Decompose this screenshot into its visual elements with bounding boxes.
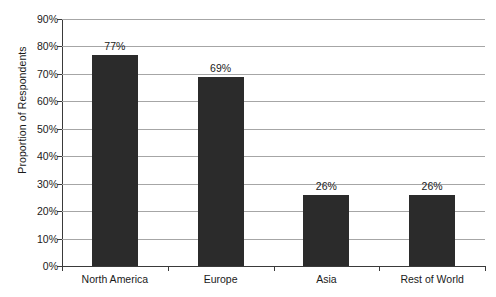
x-axis-category-label: Rest of World xyxy=(400,273,463,285)
y-axis-tick-label: 90% xyxy=(24,13,58,25)
y-axis-tick-label: 60% xyxy=(24,95,58,107)
bar xyxy=(303,195,349,266)
bar-value-label: 26% xyxy=(422,180,443,192)
y-axis-tick-mark xyxy=(57,184,62,185)
gridline xyxy=(62,46,485,47)
bar xyxy=(198,77,244,266)
y-axis-tick-mark xyxy=(57,101,62,102)
x-axis-tick-mark xyxy=(485,266,486,271)
y-axis-tick-mark xyxy=(57,46,62,47)
x-axis-tick-mark xyxy=(168,266,169,271)
bar-value-label: 69% xyxy=(210,62,231,74)
y-axis-tick-labels: 0%10%20%30%40%50%60%70%80%90% xyxy=(22,0,58,297)
bar-value-label: 26% xyxy=(316,180,337,192)
x-axis-tick-mark xyxy=(62,266,63,271)
bar xyxy=(409,195,455,266)
bar xyxy=(92,55,138,266)
y-axis-tick-mark xyxy=(57,239,62,240)
x-axis-category-label: Europe xyxy=(204,273,238,285)
y-axis-tick-label: 20% xyxy=(24,205,58,217)
y-axis-tick-label: 10% xyxy=(24,233,58,245)
plot-area xyxy=(62,19,485,266)
x-axis-category-label: North America xyxy=(82,273,149,285)
y-axis-tick-label: 70% xyxy=(24,68,58,80)
y-axis-tick-label: 50% xyxy=(24,123,58,135)
y-axis-tick-mark xyxy=(57,156,62,157)
y-axis-tick-mark xyxy=(57,129,62,130)
y-axis-tick-mark xyxy=(57,211,62,212)
x-axis-tick-mark xyxy=(379,266,380,271)
y-axis-tick-mark xyxy=(57,74,62,75)
x-axis-tick-mark xyxy=(274,266,275,271)
y-axis-tick-label: 40% xyxy=(24,150,58,162)
x-axis-category-label: Asia xyxy=(316,273,336,285)
gridline xyxy=(62,19,485,20)
y-axis-tick-label: 30% xyxy=(24,178,58,190)
bar-value-label: 77% xyxy=(104,40,125,52)
y-axis-tick-label: 80% xyxy=(24,40,58,52)
y-axis-tick-label: 0% xyxy=(24,260,58,272)
bar-chart: Proportion of Respondents 0%10%20%30%40%… xyxy=(0,0,496,297)
y-axis-tick-mark xyxy=(57,19,62,20)
